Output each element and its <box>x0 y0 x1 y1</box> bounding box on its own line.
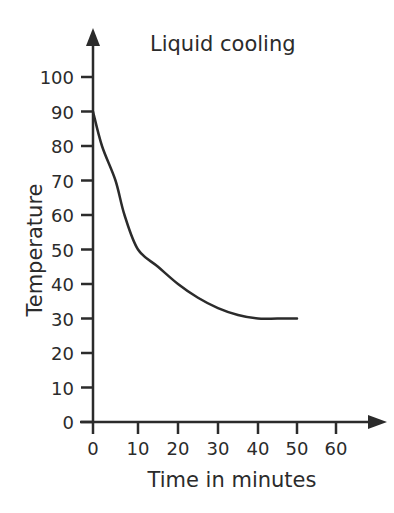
x-axis-label: Time in minutes <box>147 468 317 492</box>
x-tick-label: 10 <box>127 438 150 459</box>
x-tick-label: 30 <box>207 438 230 459</box>
y-axis-arrow-icon <box>86 28 100 46</box>
y-tick-label: 90 <box>51 102 74 123</box>
x-axis-arrow-icon <box>368 415 387 429</box>
y-tick-label: 40 <box>51 274 74 295</box>
chart-title: Liquid cooling <box>150 32 296 56</box>
chart: Liquid cooling 0102030405060708090100 01… <box>0 0 394 513</box>
y-tick-label: 10 <box>51 378 74 399</box>
temperature-curve <box>93 112 297 319</box>
x-tick-label: 40 <box>247 438 270 459</box>
y-ticks: 0102030405060708090100 <box>40 67 93 433</box>
x-tick-label: 60 <box>325 438 348 459</box>
y-axis <box>86 28 100 422</box>
x-ticks: 0102030405060 <box>87 422 347 459</box>
x-tick-label: 20 <box>167 438 190 459</box>
y-tick-label: 50 <box>51 240 74 261</box>
y-tick-label: 70 <box>51 171 74 192</box>
y-tick-label: 100 <box>40 67 74 88</box>
x-tick-label: 0 <box>87 438 98 459</box>
y-tick-label: 0 <box>63 412 74 433</box>
y-tick-label: 60 <box>51 205 74 226</box>
y-axis-label: Temperature <box>23 183 47 317</box>
y-tick-label: 30 <box>51 309 74 330</box>
y-tick-label: 80 <box>51 136 74 157</box>
y-tick-label: 20 <box>51 343 74 364</box>
x-axis <box>80 415 387 429</box>
x-tick-label: 50 <box>286 438 309 459</box>
